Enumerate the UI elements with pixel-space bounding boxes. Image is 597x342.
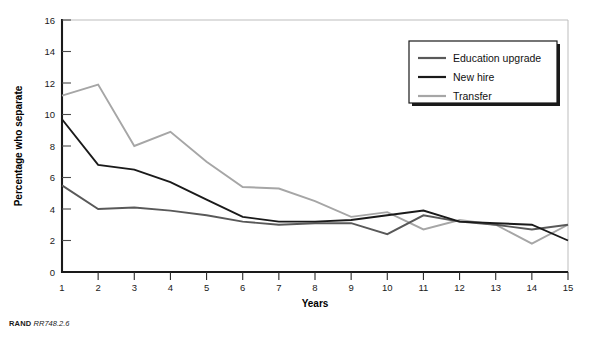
x-tick-label-13: 13 <box>490 282 501 293</box>
rand-brand-label: RAND <box>9 319 31 328</box>
y-axis-title: Percentage who separate <box>13 85 24 206</box>
legend-label-transfer: Transfer <box>453 90 492 102</box>
x-tick-label-7: 7 <box>276 282 281 293</box>
x-tick-label-12: 12 <box>454 282 465 293</box>
figure-source-note: RAND RR748.2.6 <box>9 319 69 328</box>
figure-identifier: RR748.2.6 <box>34 319 70 328</box>
x-tick-label-15: 15 <box>563 282 574 293</box>
x-tick-label-9: 9 <box>348 282 353 293</box>
x-tick-label-2: 2 <box>95 282 100 293</box>
y-tick-label-10: 10 <box>44 109 55 120</box>
x-tick-label-8: 8 <box>312 282 317 293</box>
x-tick-label-11: 11 <box>418 282 428 293</box>
legend-label-education-upgrade: Education upgrade <box>453 52 541 64</box>
chart-legend[interactable]: Education upgradeNew hireTransfer <box>409 41 560 106</box>
y-tick-label-6: 6 <box>50 172 55 183</box>
legend-label-new-hire: New hire <box>453 71 495 83</box>
y-tick-label-14: 14 <box>44 46 55 57</box>
x-tick-label-14: 14 <box>527 282 538 293</box>
series-line-new-hire <box>62 119 568 240</box>
y-tick-label-4: 4 <box>50 204 55 215</box>
series-line-education-upgrade <box>62 185 568 234</box>
x-tick-label-10: 10 <box>382 282 393 293</box>
x-tick-label-3: 3 <box>132 282 137 293</box>
x-axis-title: Years <box>302 298 329 309</box>
figure-container: 0246810121416 123456789101112131415 Perc… <box>0 0 597 342</box>
x-tick-label-1: 1 <box>59 282 64 293</box>
x-tick-label-5: 5 <box>204 282 209 293</box>
line-chart: 0246810121416 123456789101112131415 Perc… <box>0 0 597 342</box>
y-tick-label-8: 8 <box>50 141 55 152</box>
data-series-group <box>62 85 568 244</box>
x-axis-ticks <box>98 272 568 280</box>
x-tick-label-4: 4 <box>168 282 173 293</box>
series-line-transfer <box>62 85 568 244</box>
y-tick-label-12: 12 <box>44 78 55 89</box>
y-tick-label-0: 0 <box>50 267 55 278</box>
x-tick-label-6: 6 <box>240 282 245 293</box>
x-axis-tick-labels: 123456789101112131415 <box>59 282 573 293</box>
y-tick-label-16: 16 <box>44 15 55 26</box>
y-axis-tick-labels: 0246810121416 <box>44 15 55 278</box>
y-tick-label-2: 2 <box>50 235 55 246</box>
